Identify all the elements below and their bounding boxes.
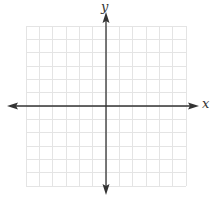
- x-axis-label: x: [202, 97, 209, 110]
- coordinate-plane: [0, 0, 217, 201]
- y-axis-label: y: [101, 0, 108, 13]
